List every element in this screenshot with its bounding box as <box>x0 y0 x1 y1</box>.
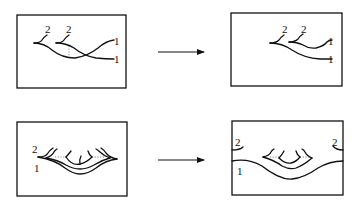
label: 2 <box>32 143 38 155</box>
panel-top-left: 2 2 1 1 <box>17 15 126 88</box>
label: 2 <box>235 136 241 148</box>
label: 2 <box>66 23 72 35</box>
panel-frame <box>232 121 343 195</box>
fork-curve <box>56 35 69 43</box>
panel-frame <box>17 122 127 196</box>
strand-curve <box>34 40 114 58</box>
label: 1 <box>328 53 334 65</box>
fork-curve <box>289 34 303 42</box>
panel-frame <box>17 15 126 88</box>
label: 1 <box>34 162 40 174</box>
panel-bottom-right: 2 2 1 <box>232 121 343 195</box>
cusp-curve <box>80 156 81 164</box>
label: 1 <box>114 35 120 47</box>
label: 1 <box>328 35 334 47</box>
panel-top-right: 2 2 1 1 <box>231 13 342 86</box>
panel-bottom-left: 2 1 <box>17 122 127 196</box>
label: 1 <box>114 53 120 65</box>
fork-curve <box>270 35 284 43</box>
inner-arc <box>66 157 92 164</box>
lens-curve-inner <box>46 158 110 169</box>
label: 2 <box>301 23 307 35</box>
cusp-curve <box>66 151 71 157</box>
label: 1 <box>237 165 243 177</box>
cusp-curve <box>279 151 284 158</box>
cusp-curve <box>88 151 92 157</box>
cusp-curve <box>296 151 300 157</box>
fork-curve <box>34 35 47 43</box>
cusp-curve <box>263 149 274 157</box>
inner-arc <box>279 157 300 163</box>
diagram-canvas: 2 2 1 1 2 2 1 1 2 1 <box>0 0 361 202</box>
label: 2 <box>282 23 288 35</box>
label: 2 <box>45 23 51 35</box>
label: 2 <box>332 136 338 148</box>
